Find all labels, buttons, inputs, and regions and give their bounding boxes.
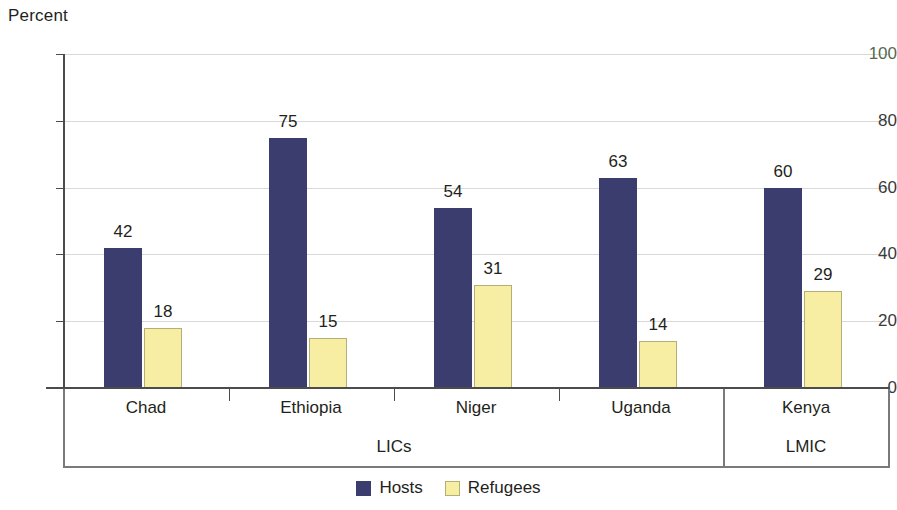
category-label-kenya: Kenya [782,398,830,418]
gridline-100 [64,54,890,55]
plot-area [64,54,890,388]
gridline-80 [64,121,890,122]
bar-niger-hosts [434,208,472,388]
category-tick-2 [394,389,395,401]
legend-label-hosts: Hosts [379,478,422,498]
category-label-ethiopia: Ethiopia [280,398,341,418]
bar-uganda-refugees [639,341,677,388]
y-tick-mark-80 [56,121,65,122]
y-tick-mark-100 [56,54,65,55]
bar-chad-hosts [104,248,142,388]
y-axis-title: Percent [8,6,68,26]
y-tick-label-40: 40 [851,244,897,264]
value-niger-hosts: 54 [444,182,463,202]
bar-ethiopia-hosts [269,138,307,389]
value-chad-refugees: 18 [154,302,173,322]
legend-item-hosts: Hosts [356,478,422,498]
legend-swatch-refugees-icon [445,481,460,496]
legend-swatch-hosts-icon [356,481,371,496]
value-ethiopia-hosts: 75 [279,112,298,132]
group-label-lmic: LMIC [786,437,827,457]
value-kenya-refugees: 29 [814,265,833,285]
value-niger-refugees: 31 [484,259,503,279]
category-label-chad: Chad [126,398,167,418]
group-label-lics: LICs [377,437,412,457]
group-divider [723,389,725,468]
category-tick-3 [559,389,560,401]
y-tick-mark-60 [56,188,65,189]
bar-kenya-refugees [804,291,842,388]
legend-item-refugees: Refugees [445,478,541,498]
chart-legend: Hosts Refugees [0,478,897,498]
bar-niger-refugees [474,285,512,389]
value-uganda-refugees: 14 [649,315,668,335]
category-tick-1 [229,389,230,401]
grouped-bar-chart: Percent 42 18 75 15 54 31 63 14 60 29 [0,0,897,510]
y-axis-line [63,54,65,388]
y-tick-label-80: 80 [851,111,897,131]
y-tick-mark-40 [56,254,65,255]
bar-ethiopia-refugees [309,338,347,388]
bar-kenya-hosts [764,188,802,388]
legend-label-refugees: Refugees [468,478,541,498]
bar-chad-refugees [144,328,182,388]
value-chad-hosts: 42 [114,222,133,242]
category-label-uganda: Uganda [611,398,671,418]
value-kenya-hosts: 60 [774,162,793,182]
category-label-niger: Niger [456,398,497,418]
value-uganda-hosts: 63 [609,152,628,172]
y-tick-label-60: 60 [851,178,897,198]
y-tick-mark-20 [56,321,65,322]
bar-uganda-hosts [599,178,637,388]
y-tick-label-100: 100 [851,44,897,64]
y-tick-label-20: 20 [851,311,897,331]
value-ethiopia-refugees: 15 [319,312,338,332]
